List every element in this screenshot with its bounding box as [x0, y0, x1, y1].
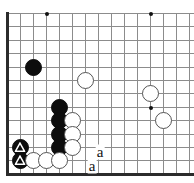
point-label-a-upper: a [96, 145, 105, 160]
go-board-diagram: aa [0, 0, 194, 183]
label-layer: aa [0, 0, 194, 183]
point-label-a-lower: a [88, 159, 97, 174]
